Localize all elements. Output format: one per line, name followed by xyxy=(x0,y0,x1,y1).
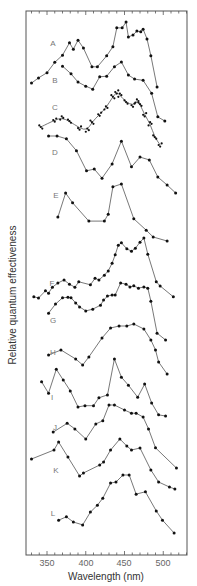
data-point xyxy=(166,184,169,187)
data-point xyxy=(37,297,40,300)
data-point xyxy=(120,376,123,379)
data-point xyxy=(62,379,65,382)
data-point xyxy=(116,93,118,95)
data-point xyxy=(103,220,106,223)
data-point xyxy=(97,396,100,399)
data-point xyxy=(106,393,109,396)
data-point xyxy=(157,413,160,416)
data-point xyxy=(130,449,133,452)
data-point xyxy=(112,96,114,98)
data-point xyxy=(130,165,133,168)
data-point xyxy=(111,162,114,165)
curve-line xyxy=(49,283,166,340)
data-point xyxy=(150,401,153,404)
data-point xyxy=(101,337,104,340)
data-point xyxy=(152,236,155,239)
data-point xyxy=(117,89,119,91)
data-point xyxy=(94,277,97,280)
data-point xyxy=(72,520,75,523)
data-point xyxy=(101,497,104,500)
data-point xyxy=(56,216,59,219)
data-point xyxy=(98,464,101,467)
data-point xyxy=(98,75,101,78)
x-tick-label-450: 450 xyxy=(116,558,131,568)
data-point xyxy=(109,327,112,330)
data-point xyxy=(143,383,146,386)
data-point xyxy=(61,296,64,299)
data-point xyxy=(81,523,84,526)
data-point xyxy=(91,88,94,91)
data-point xyxy=(81,364,84,367)
data-point xyxy=(142,285,145,288)
data-point xyxy=(61,54,64,57)
data-point xyxy=(126,103,128,105)
curve-label-f: F xyxy=(50,279,55,288)
data-point xyxy=(156,176,159,179)
curve-c: C xyxy=(38,89,163,147)
data-point xyxy=(69,389,72,392)
data-point xyxy=(145,37,148,40)
data-point xyxy=(149,339,152,342)
data-point xyxy=(59,118,61,120)
data-point xyxy=(91,308,94,311)
data-point xyxy=(156,115,159,118)
curve-label-j: J xyxy=(53,423,57,432)
data-point xyxy=(89,283,92,286)
data-point xyxy=(111,185,114,188)
data-point xyxy=(80,125,82,127)
data-point xyxy=(54,121,56,123)
data-point xyxy=(157,481,160,484)
data-point xyxy=(61,115,63,117)
data-point xyxy=(68,120,70,122)
data-point xyxy=(97,279,100,282)
data-point xyxy=(147,427,150,430)
data-point xyxy=(121,26,124,29)
data-point xyxy=(121,474,124,477)
data-point xyxy=(70,72,73,75)
data-point xyxy=(55,117,57,119)
data-point xyxy=(66,422,69,425)
curve-line xyxy=(63,62,165,121)
data-point xyxy=(46,71,49,74)
data-point xyxy=(137,101,139,103)
y-axis-label: Relative quantum effectiveness xyxy=(7,226,18,365)
data-point xyxy=(68,283,71,286)
data-point xyxy=(161,519,164,522)
data-point xyxy=(70,122,72,124)
curve-j: J xyxy=(52,404,178,470)
data-point xyxy=(114,293,117,296)
curve-f: F xyxy=(32,237,175,300)
data-point xyxy=(149,469,152,472)
data-point xyxy=(92,123,94,125)
data-point xyxy=(130,104,132,106)
data-point xyxy=(139,156,142,159)
data-point xyxy=(72,48,75,51)
data-point xyxy=(119,282,122,285)
data-point xyxy=(40,126,42,128)
data-point xyxy=(142,114,144,116)
data-point xyxy=(154,136,156,138)
data-point xyxy=(84,438,87,441)
data-point xyxy=(113,65,116,68)
data-point xyxy=(156,86,159,89)
data-point xyxy=(161,142,163,144)
data-point xyxy=(99,115,101,117)
data-point xyxy=(93,168,96,171)
data-point xyxy=(109,449,112,452)
data-point xyxy=(47,292,50,295)
data-point xyxy=(64,192,67,195)
data-point xyxy=(77,405,80,408)
data-point xyxy=(125,445,128,448)
data-point xyxy=(100,112,102,114)
data-point xyxy=(73,427,76,430)
data-point xyxy=(139,241,142,244)
data-point xyxy=(94,422,97,425)
data-point xyxy=(164,415,167,418)
data-point xyxy=(125,101,127,103)
data-point xyxy=(52,119,54,121)
data-point xyxy=(85,169,88,172)
data-point xyxy=(137,287,140,290)
data-point xyxy=(109,482,112,485)
data-point xyxy=(135,30,138,33)
data-point xyxy=(103,274,106,277)
